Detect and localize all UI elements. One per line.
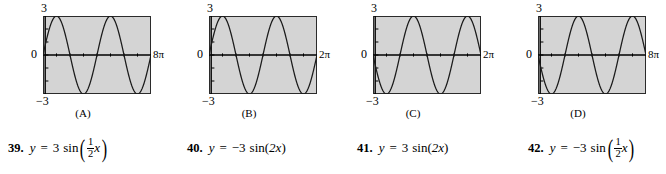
equation-lhs-40: y [209,140,215,156]
equation-coefficient-42: −3 [573,140,587,156]
y-min-label-c: −3 [366,95,379,107]
equation-equals-41: = [389,140,396,156]
close-paren-41: ) [444,140,448,156]
plot-area-d [538,16,646,94]
panel-caption-d: (D) [495,107,661,119]
equation-lhs-42: y [550,140,556,156]
equation-number-41: 41. [357,141,373,156]
equation-item-40: 40. y = −3 sin ( 2x ) [187,128,286,168]
graph-row: 3 0 −3 8π (A) 3 0 −3 2π (B [0,0,666,120]
sine-curve-svg-d [538,16,646,94]
equation-row: 39. y = 3 sin ( 1 2 x ) 40. y = −3 sin [0,128,666,174]
graph-panel-c: 3 0 −3 2π (C) [330,0,496,120]
y-max-label-b: 3 [207,2,213,14]
equation-equals-40: = [219,140,226,156]
x-max-label-c: 2π [483,48,494,60]
equation-item-39: 39. y = 3 sin ( 1 2 x ) [8,128,109,168]
graph-panel-b: 3 0 −3 2π (B) [166,0,332,120]
equation-number-39: 39. [8,141,24,156]
equation-variable-39: x [94,140,100,156]
equation-function-42: sin [591,140,606,156]
fraction-39: 1 2 [87,137,94,159]
equation-equals-42: = [560,140,567,156]
x-max-label-d: 8π [648,48,659,60]
y-max-label-d: 3 [536,2,542,14]
equation-lhs-39: y [30,140,36,156]
y-max-label-c: 3 [371,2,377,14]
equation-coefficient-40: −3 [232,140,246,156]
y-zero-label-b: 0 [197,48,203,60]
open-paren-39: ( [80,140,85,159]
equation-item-42: 42. y = −3 sin ( 1 2 x ) [528,128,636,168]
equation-function-39: sin [63,140,78,156]
equation-variable-42: x [622,140,628,156]
fraction-42: 1 2 [614,137,621,159]
y-zero-label-a: 0 [31,48,37,60]
fraction-numerator-42: 1 [614,137,621,148]
equation-argument-41: ( 2x ) [427,140,448,156]
sine-curve-svg-a [43,16,151,94]
equation-argument-39: ( 1 2 x ) [78,137,108,159]
panel-caption-a: (A) [0,107,166,119]
panel-caption-b: (B) [166,107,332,119]
equation-item-41: 41. y = 3 sin ( 2x ) [357,128,448,168]
equation-inline-arg-40: 2x [269,140,281,156]
fraction-numerator-39: 1 [87,137,94,148]
plot-area-b [209,16,317,94]
y-zero-label-d: 0 [526,48,532,60]
graph-panel-a: 3 0 −3 8π (A) [0,0,166,120]
y-max-label-a: 3 [41,2,47,14]
y-min-label-b: −3 [202,95,215,107]
equation-coefficient-41: 3 [402,140,409,156]
equation-lhs-41: y [379,140,385,156]
figure-page: 3 0 −3 8π (A) 3 0 −3 2π (B [0,0,666,174]
x-max-label-b: 2π [319,48,330,60]
sine-curve-svg-c [373,16,481,94]
equation-argument-40: ( 2x ) [265,140,286,156]
close-paren-40: ) [281,140,285,156]
open-paren-42: ( [607,140,612,159]
close-paren-42: ) [629,140,634,159]
equation-inline-arg-41: 2x [432,140,444,156]
equation-equals-39: = [40,140,47,156]
fraction-denominator-39: 2 [87,148,94,160]
plot-area-a [43,16,151,94]
equation-function-40: sin [250,140,265,156]
y-zero-label-c: 0 [361,48,367,60]
equation-argument-42: ( 1 2 x ) [606,137,636,159]
equation-function-41: sin [412,140,427,156]
equation-number-40: 40. [187,141,203,156]
plot-area-c [373,16,481,94]
x-max-label-a: 8π [153,48,164,60]
equation-coefficient-39: 3 [53,140,60,156]
y-min-label-d: −3 [531,95,544,107]
panel-caption-c: (C) [330,107,496,119]
close-paren-39: ) [102,140,107,159]
fraction-denominator-42: 2 [614,148,621,160]
graph-panel-d: 3 0 −3 8π (D) [495,0,661,120]
y-min-label-a: −3 [36,95,49,107]
sine-curve-svg-b [209,16,317,94]
equation-number-42: 42. [528,141,544,156]
